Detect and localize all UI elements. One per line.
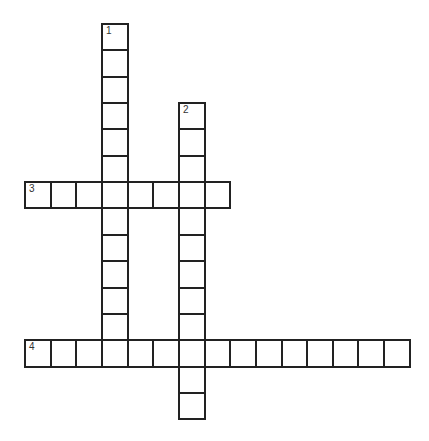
crossword-cell[interactable] xyxy=(101,260,129,289)
crossword-cell[interactable]: 3 xyxy=(24,181,52,209)
crossword-cell[interactable] xyxy=(332,339,359,368)
crossword-cell[interactable] xyxy=(101,181,129,209)
crossword-cell[interactable] xyxy=(101,49,129,78)
clue-number: 1 xyxy=(106,26,112,36)
crossword-cell[interactable] xyxy=(127,181,154,209)
clue-number: 3 xyxy=(29,184,35,194)
crossword-cell[interactable] xyxy=(101,234,129,262)
crossword-cell[interactable]: 4 xyxy=(24,339,52,368)
crossword-grid: 1234 xyxy=(0,0,429,441)
crossword-cell[interactable] xyxy=(127,339,154,368)
crossword-cell[interactable]: 2 xyxy=(178,102,206,130)
clue-number: 4 xyxy=(29,342,35,352)
crossword-cell[interactable] xyxy=(178,287,206,315)
crossword-cell[interactable] xyxy=(178,155,206,183)
crossword-cell[interactable] xyxy=(229,339,257,368)
crossword-cell[interactable] xyxy=(357,339,385,368)
crossword-cell[interactable] xyxy=(101,128,129,157)
crossword-cell[interactable] xyxy=(101,102,129,130)
crossword-cell[interactable] xyxy=(178,234,206,262)
crossword-cell[interactable] xyxy=(50,181,77,209)
crossword-cell[interactable] xyxy=(101,207,129,236)
crossword-cell[interactable] xyxy=(204,339,231,368)
crossword-cell[interactable]: 1 xyxy=(101,23,129,51)
crossword-cell[interactable] xyxy=(101,287,129,315)
crossword-cell[interactable] xyxy=(204,181,231,209)
crossword-cell[interactable] xyxy=(306,339,334,368)
crossword-cell[interactable] xyxy=(178,181,206,209)
crossword-cell[interactable] xyxy=(178,207,206,236)
crossword-cell[interactable] xyxy=(178,260,206,289)
crossword-cell[interactable] xyxy=(101,76,129,104)
crossword-cell[interactable] xyxy=(178,128,206,157)
crossword-cell[interactable] xyxy=(178,313,206,341)
crossword-cell[interactable] xyxy=(50,339,77,368)
crossword-cell[interactable] xyxy=(178,366,206,394)
crossword-cell[interactable] xyxy=(383,339,411,368)
crossword-cell[interactable] xyxy=(75,181,103,209)
crossword-cell[interactable] xyxy=(178,392,206,420)
crossword-cell[interactable] xyxy=(255,339,283,368)
crossword-cell[interactable] xyxy=(101,155,129,183)
crossword-cell[interactable] xyxy=(101,339,129,368)
crossword-cell[interactable] xyxy=(152,181,180,209)
clue-number: 2 xyxy=(183,105,189,115)
crossword-cell[interactable] xyxy=(152,339,180,368)
crossword-cell[interactable] xyxy=(281,339,308,368)
crossword-cell[interactable] xyxy=(75,339,103,368)
crossword-cell[interactable] xyxy=(178,339,206,368)
crossword-cell[interactable] xyxy=(101,313,129,341)
